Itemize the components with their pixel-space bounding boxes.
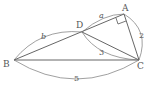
label-C: C (137, 61, 144, 71)
length-2: 2 (139, 31, 144, 40)
segment-DC (82, 32, 139, 60)
right-angle-mark (116, 18, 126, 24)
label-B: B (3, 59, 10, 69)
geometry-figure: A B C D a b 3 2 5 (0, 0, 152, 85)
length-3: 3 (99, 48, 104, 57)
length-5: 5 (74, 74, 79, 83)
label-A: A (121, 3, 129, 13)
length-b: b (41, 32, 46, 41)
segment-AB (14, 14, 124, 60)
segment-AC (124, 14, 139, 60)
label-D: D (76, 20, 83, 30)
length-a: a (99, 11, 104, 20)
